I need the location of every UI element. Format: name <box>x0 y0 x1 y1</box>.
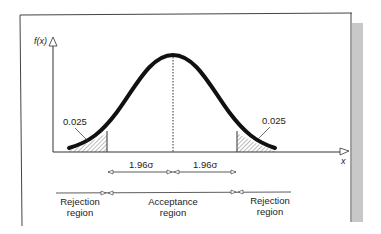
arrow-right-icon <box>231 170 236 174</box>
center-region-label-2: region <box>160 207 186 218</box>
right-tail-area <box>237 133 275 152</box>
right-tail-leader <box>258 127 270 139</box>
left-region-label-2: region <box>67 207 93 218</box>
frame-shadow <box>352 23 363 222</box>
region-line <box>56 192 291 193</box>
left-tail-leader <box>75 128 88 141</box>
right-region-label-2: region <box>257 206 283 217</box>
arrow-left-icon <box>174 170 179 174</box>
center-region-label-1: Acceptance <box>148 196 198 207</box>
frame-top <box>20 13 352 15</box>
normal-curve <box>69 55 275 148</box>
arrow-right-icon <box>231 190 236 194</box>
arrow-left-icon <box>108 191 113 195</box>
arrow-right-icon <box>101 191 106 195</box>
x-axis-arrow-icon <box>340 148 349 155</box>
arrow-left-icon <box>108 170 113 174</box>
arrow-right-icon <box>167 170 172 174</box>
left-tail-area <box>69 133 107 152</box>
arrow-left-icon <box>238 190 243 194</box>
sigma-left-label: 1.96σ <box>129 159 153 170</box>
y-axis-arrow-icon <box>49 37 57 46</box>
left-region-label-1: Rejection <box>60 196 100 207</box>
frame-left <box>20 15 22 226</box>
x-axis-label: x <box>340 156 346 166</box>
left-tail-label: 0.025 <box>63 116 87 127</box>
y-axis-label: f(x) <box>34 36 47 46</box>
sigma-right-label: 1.96σ <box>193 159 217 170</box>
diagram-canvas: f(x) x 0.025 0.025 1.96σ 1.96σ Rejection… <box>0 0 381 234</box>
right-tail-label: 0.025 <box>262 115 286 126</box>
right-region-label-1: Rejection <box>250 195 290 206</box>
